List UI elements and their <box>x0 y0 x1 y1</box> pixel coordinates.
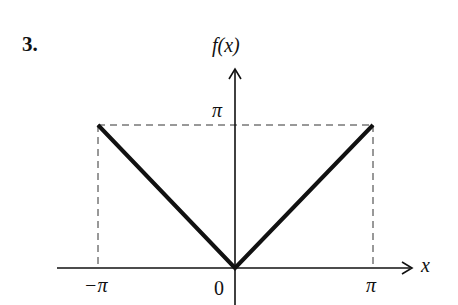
x-tick-zero: 0 <box>214 277 224 299</box>
y-tick-pi: π <box>212 99 223 121</box>
x-axis-label: x <box>420 254 430 276</box>
x-tick-neg-pi: −π <box>84 274 108 296</box>
abs-value-plot: f(x) x π −π 0 π <box>0 0 458 305</box>
x-tick-pi: π <box>366 274 377 296</box>
y-axis-label: f(x) <box>212 34 240 57</box>
